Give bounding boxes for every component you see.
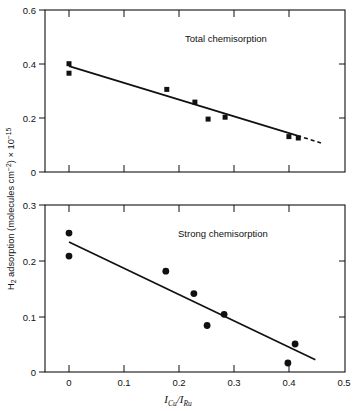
- x-axis-label-numerator-sub: Cu: [168, 399, 177, 408]
- top-panel-fit-line-extension: [297, 136, 321, 143]
- data-point: [162, 268, 169, 275]
- data-point: [206, 117, 211, 122]
- y-axis-label-text-1: H: [6, 283, 16, 290]
- top-panel-y-tick-labels: 0.6 0.4 0.2 0: [23, 5, 36, 178]
- data-point: [292, 341, 299, 348]
- x-tick-label-0: 0: [66, 377, 71, 388]
- data-point: [66, 253, 73, 260]
- data-point: [223, 115, 228, 120]
- x-axis-label-denominator-sub: Ru: [182, 399, 192, 408]
- x-tick-label-3: 0.3: [227, 377, 240, 388]
- y-axis-label-text-3: ) × 10: [6, 139, 16, 163]
- x-axis-label: ICu/IRu: [163, 393, 192, 408]
- bottom-panel-y-tick-labels: 0.3 0.2 0.1 0: [23, 200, 36, 378]
- data-point: [67, 61, 72, 66]
- top-panel: 0.6 0.4 0.2 0 Total chemisorption: [23, 5, 345, 178]
- bottom-panel-x-tick-labels: 0 0.1 0.2 0.3 0.4 0.5: [66, 377, 350, 388]
- top-y-tick-label-2: 0.2: [23, 113, 36, 124]
- bottom-y-tick-label-0: 0.3: [23, 200, 36, 211]
- x-tick-label-2: 0.2: [172, 377, 185, 388]
- bottom-panel-fit-line: [69, 242, 315, 360]
- bottom-y-tick-label-1: 0.2: [23, 256, 36, 267]
- bottom-y-tick-label-2: 0.1: [23, 312, 36, 323]
- x-tick-label-1: 0.1: [117, 377, 130, 388]
- bottom-panel: 0.3 0.2 0.1 0 0 0.1 0.2 0.3 0.4 0.5 Stro…: [23, 200, 351, 389]
- data-point: [296, 136, 301, 141]
- figure-canvas: H2 adsorption (molecules cm−2) × 10−15: [0, 0, 356, 411]
- data-point: [191, 290, 198, 297]
- y-axis-label: H2 adsorption (molecules cm−2) × 10−15: [5, 127, 18, 290]
- y-axis-label-sup-2: −15: [5, 127, 12, 139]
- data-point: [66, 230, 73, 237]
- top-y-tick-label-0: 0.6: [23, 5, 36, 16]
- y-axis-label-text-2: adsorption (molecules cm: [6, 171, 16, 280]
- data-point: [286, 134, 291, 139]
- bottom-y-tick-label-3: 0: [31, 367, 36, 378]
- data-point: [204, 322, 211, 329]
- svg-text:H2 adsorption (molecules cm−2): H2 adsorption (molecules cm−2) × 10−15: [5, 127, 18, 290]
- svg-text:ICu/IRu: ICu/IRu: [163, 393, 192, 408]
- x-tick-label-5: 0.5: [337, 377, 350, 388]
- bottom-panel-title: Strong chemisorption: [178, 228, 268, 239]
- data-point: [221, 311, 228, 318]
- top-panel-title: Total chemisorption: [185, 33, 267, 44]
- data-point: [67, 71, 72, 76]
- top-panel-fit-line: [69, 66, 297, 136]
- top-y-tick-label-1: 0.4: [23, 59, 36, 70]
- top-y-tick-label-3: 0: [31, 167, 36, 178]
- data-point: [164, 87, 169, 92]
- data-point: [285, 360, 292, 367]
- data-point: [192, 100, 197, 105]
- bottom-panel-data-points: [66, 230, 299, 367]
- chemisorption-figure: H2 adsorption (molecules cm−2) × 10−15: [0, 0, 356, 411]
- x-tick-label-4: 0.4: [282, 377, 295, 388]
